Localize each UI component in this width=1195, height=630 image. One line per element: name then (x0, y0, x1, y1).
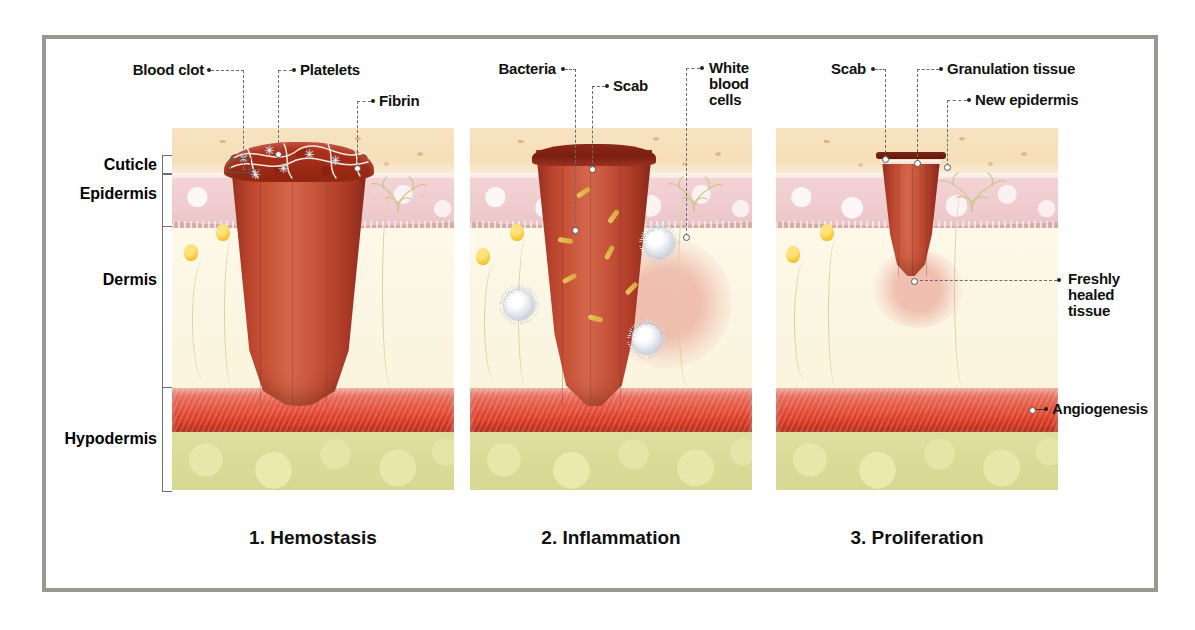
axis-label-hypodermis: Hypodermis (20, 430, 157, 448)
leader-line (917, 69, 918, 162)
bracket-cuticle (162, 155, 172, 175)
sweat-gland-icon (510, 224, 524, 241)
callout-anchor (589, 166, 596, 173)
callout-scab: Scab (806, 61, 866, 77)
leader-line (915, 280, 1057, 281)
wound-wall (536, 150, 652, 406)
callout-anchor (275, 151, 282, 158)
callout-anchor (354, 165, 361, 172)
bracket-dermis (162, 226, 172, 388)
callout-dot (292, 68, 296, 72)
leader-line (686, 68, 700, 69)
leader-line (278, 70, 279, 153)
leader-line (357, 101, 358, 167)
gland-duct (794, 262, 815, 380)
sweat-gland-icon (820, 224, 834, 241)
nerve-ending-icon (936, 172, 1008, 212)
platelet-icon: ✳ (278, 162, 289, 175)
leader-line (592, 86, 593, 168)
caption-hemostasis: 1. Hemostasis (172, 527, 454, 549)
wound-wall (230, 154, 368, 406)
wound-ridge (260, 154, 261, 406)
wound-ridge (926, 160, 927, 276)
nerve-branches-icon (936, 172, 1008, 212)
wound-cavity (882, 160, 940, 276)
callout-dot (1044, 407, 1048, 411)
white-blood-cell-icon (644, 228, 674, 258)
granulation-tissue (882, 160, 940, 276)
callout-dot (939, 67, 943, 71)
wound-ridge (326, 154, 327, 406)
leader-line (357, 101, 371, 102)
wound-cavity (536, 150, 652, 406)
new-epidermis (880, 160, 942, 164)
platelet-icon: ✳ (330, 154, 341, 167)
callout-anchor (914, 160, 921, 167)
bracket-hypodermis (162, 387, 172, 492)
sweat-gland-icon (216, 224, 230, 241)
figure-root: Cuticle Epidermis Dermis Hypodermis (0, 0, 1195, 630)
caption-proliferation: 3. Proliferation (776, 527, 1058, 549)
callout-dot (700, 66, 704, 70)
wound-ridge (620, 150, 621, 406)
nerve-ending-icon (368, 176, 428, 212)
leader-line (917, 69, 939, 70)
caption-inflammation: 2. Inflammation (470, 527, 752, 549)
layer-hypodermis-fat (470, 432, 752, 490)
leader-line (947, 100, 948, 166)
callout-dot (1057, 278, 1061, 282)
callout-scab: Scab (613, 78, 673, 94)
platelet-icon: ✳ (264, 144, 275, 157)
bracket-epidermis (162, 173, 172, 227)
leader-line (947, 100, 967, 101)
callout-platelets: Platelets (300, 62, 396, 78)
axis-label-dermis: Dermis (55, 271, 157, 289)
callout-freshly-healed-tissue: Freshly healed tissue (1068, 271, 1158, 319)
platelet-icon: ✳ (304, 148, 315, 161)
layer-hypodermis-fat (172, 432, 454, 490)
sweat-gland-icon (786, 246, 800, 263)
sweat-gland-icon (476, 248, 490, 265)
leader-line (575, 69, 576, 229)
callout-anchor (1029, 407, 1036, 414)
wound-ridge (898, 160, 899, 276)
leader-line (278, 70, 292, 71)
blood-vessel (776, 388, 1058, 432)
callout-dot (967, 98, 971, 102)
wound-ridge (292, 154, 293, 406)
leader-line (243, 70, 244, 169)
callout-white-blood-cells: White blood cells (709, 60, 787, 108)
axis-label-cuticle: Cuticle (55, 156, 157, 174)
layer-hypodermis-fat (776, 432, 1058, 490)
panel-inflammation (470, 128, 752, 490)
callout-anchor (683, 234, 690, 241)
nerve-fiber (382, 190, 399, 386)
gland-duct (192, 260, 215, 380)
panel-hemostasis: ✳ ✳ ✳ ✳ ✳ ✳ (172, 128, 454, 490)
callout-anchor (911, 278, 918, 285)
wound-ridge (912, 160, 913, 276)
callout-dot (605, 84, 609, 88)
callout-anchor (882, 156, 889, 163)
wound-cavity (230, 154, 368, 406)
callout-bacteria: Bacteria (480, 61, 556, 77)
callout-new-epidermis: New epidermis (975, 92, 1115, 108)
callout-box (230, 158, 251, 173)
leader-line (885, 69, 886, 158)
callout-blood-clot: Blood clot (110, 62, 204, 78)
leader-line (686, 68, 687, 236)
callout-fibrin: Fibrin (379, 93, 449, 109)
leader-line (211, 70, 244, 71)
white-blood-cell-icon (504, 290, 534, 320)
panel-proliferation (776, 128, 1058, 490)
scab (532, 144, 656, 166)
axis-label-epidermis: Epidermis (35, 185, 157, 203)
callout-granulation-tissue: Granulation tissue (947, 61, 1107, 77)
nerve-ending-icon (664, 176, 724, 212)
nerve-branches-icon (368, 176, 428, 212)
white-blood-cell-icon (632, 324, 662, 354)
callout-angiogenesis: Angiogenesis (1052, 401, 1170, 417)
leader-line (592, 86, 605, 87)
sweat-gland-icon (184, 244, 198, 261)
gland-duct (484, 264, 505, 380)
